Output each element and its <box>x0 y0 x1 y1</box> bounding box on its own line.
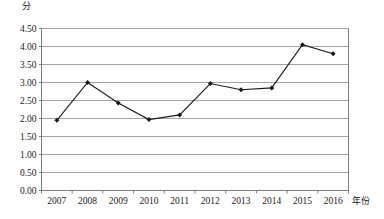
y-tick-label: 1.00 <box>20 150 37 160</box>
y-tick-label: 2.50 <box>20 96 37 106</box>
data-point-marker <box>331 51 336 56</box>
x-tick-label: 2015 <box>293 196 312 206</box>
plot-frame <box>42 29 349 191</box>
x-tick-label: 2008 <box>78 196 97 206</box>
y-tick-labels-group: 0.000.501.001.502.002.503.003.504.004.50 <box>20 24 37 196</box>
y-tick-label: 3.00 <box>20 78 37 88</box>
x-tick-label: 2016 <box>324 196 343 206</box>
data-point-marker <box>146 117 151 122</box>
data-point-marker <box>239 87 244 92</box>
line-chart: 分 0.000.501.001.502.002.503.003.504.004.… <box>0 0 384 219</box>
x-tick-label: 2007 <box>47 196 66 206</box>
x-axis-unit-label: 年份 <box>352 196 370 206</box>
y-tick-label: 4.00 <box>20 42 37 52</box>
y-tick-label: 0.00 <box>20 186 37 196</box>
y-tick-label: 0.50 <box>20 168 37 178</box>
y-tick-label: 2.00 <box>20 114 37 124</box>
x-tick-label: 2012 <box>201 196 220 206</box>
x-tick-label: 2014 <box>262 196 281 206</box>
y-tick-label: 1.50 <box>20 132 37 142</box>
x-tick-label: 2013 <box>232 196 251 206</box>
x-tick-label: 2009 <box>109 196 128 206</box>
y-tick-label: 4.50 <box>20 24 37 34</box>
x-tick-label: 2010 <box>139 196 158 206</box>
gridlines-group <box>42 29 349 173</box>
y-tick-label: 3.50 <box>20 60 37 70</box>
x-tick-labels-group: 2007200820092010201120122013201420152016 <box>47 196 343 206</box>
chart-plot-area: 0.000.501.001.502.002.503.003.504.004.50… <box>0 0 384 219</box>
x-tick-label: 2011 <box>170 196 189 206</box>
